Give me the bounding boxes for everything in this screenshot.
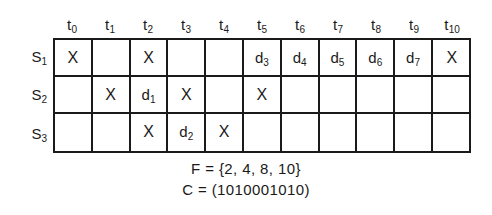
column-header-t10: t10: [433, 12, 471, 38]
column-header-t8: t8: [357, 12, 395, 38]
table-row: XXd3d4d5d6d7X: [55, 40, 469, 77]
subscript: 7: [414, 57, 420, 68]
column-header-t0: t0: [53, 12, 91, 38]
cell-S3-t1[interactable]: [93, 114, 131, 151]
cell-S3-t4[interactable]: X: [206, 114, 244, 151]
cell-S2-t1[interactable]: X: [93, 77, 131, 112]
subscript: 4: [301, 57, 307, 68]
cell-S3-t5[interactable]: [244, 114, 282, 151]
column-header-t5: t5: [243, 12, 281, 38]
cell-S1-t3[interactable]: [168, 40, 206, 75]
row-label-S1: S1: [14, 38, 53, 76]
cell-S3-t9[interactable]: [395, 114, 433, 151]
column-header-row: t0t1t2t3t4t5t6t7t8t9t10: [53, 12, 471, 38]
subscript: 7: [337, 24, 343, 35]
column-header-t1: t1: [91, 12, 129, 38]
reservation-table-figure: t0t1t2t3t4t5t6t7t8t9t10 S1S2S3 XXd3d4d5d…: [0, 0, 492, 215]
column-header-t6: t6: [281, 12, 319, 38]
cell-S1-t8[interactable]: d6: [357, 40, 395, 75]
subscript: 2: [41, 94, 47, 105]
subscript: 2: [147, 24, 153, 35]
subscript: 6: [299, 24, 305, 35]
cell-S1-t1[interactable]: [93, 40, 131, 75]
forbidden-latency-set: F = {2, 4, 8, 10}: [0, 158, 492, 179]
column-header-t7: t7: [319, 12, 357, 38]
cell-S2-t0[interactable]: [55, 77, 93, 112]
cell-S1-t10[interactable]: X: [433, 40, 471, 75]
cell-S1-t2[interactable]: X: [131, 40, 169, 75]
cell-S1-t7[interactable]: d5: [320, 40, 358, 75]
subscript: 2: [188, 131, 194, 142]
subscript: 0: [71, 24, 77, 35]
subscript: 5: [261, 24, 267, 35]
cell-S2-t3[interactable]: X: [168, 77, 206, 112]
subscript: 1: [41, 56, 47, 67]
subscript: 3: [263, 57, 269, 68]
row-label-S3: S3: [14, 115, 53, 153]
subscript: 5: [339, 57, 345, 68]
cell-S2-t6[interactable]: [282, 77, 320, 112]
row-label-column: S1S2S3: [14, 38, 53, 153]
subscript: 1: [109, 24, 115, 35]
cell-S1-t0[interactable]: X: [55, 40, 93, 75]
cell-S3-t7[interactable]: [320, 114, 358, 151]
subscript: 3: [185, 24, 191, 35]
subscript: 3: [41, 132, 47, 143]
subscript: 9: [413, 24, 419, 35]
cell-S1-t6[interactable]: d4: [282, 40, 320, 75]
cell-S3-t3[interactable]: d2: [168, 114, 206, 151]
cell-S2-t2[interactable]: d1: [131, 77, 169, 112]
subscript: 1: [150, 94, 156, 105]
subscript: 6: [377, 57, 383, 68]
cell-S2-t9[interactable]: [395, 77, 433, 112]
column-header-t4: t4: [205, 12, 243, 38]
cell-S3-t6[interactable]: [282, 114, 320, 151]
column-header-t2: t2: [129, 12, 167, 38]
table-row: Xd2X: [55, 114, 469, 151]
row-label-S2: S2: [14, 76, 53, 114]
cell-S3-t2[interactable]: X: [131, 114, 169, 151]
formula-block: F = {2, 4, 8, 10}C = (1010001010): [0, 158, 492, 200]
cell-S1-t4[interactable]: [206, 40, 244, 75]
cell-S3-t0[interactable]: [55, 114, 93, 151]
table-row: Xd1XX: [55, 77, 469, 114]
cell-S2-t8[interactable]: [357, 77, 395, 112]
collision-vector: C = (1010001010): [0, 179, 492, 200]
reservation-table-grid: XXd3d4d5d6d7XXd1XXXd2X: [53, 38, 471, 153]
cell-S1-t5[interactable]: d3: [244, 40, 282, 75]
cell-S2-t4[interactable]: [206, 77, 244, 112]
cell-S2-t7[interactable]: [320, 77, 358, 112]
cell-S1-t9[interactable]: d7: [395, 40, 433, 75]
cell-S3-t10[interactable]: [433, 114, 471, 151]
subscript: 4: [223, 24, 229, 35]
column-header-t3: t3: [167, 12, 205, 38]
subscript: 8: [375, 24, 381, 35]
column-header-t9: t9: [395, 12, 433, 38]
cell-S2-t10[interactable]: [433, 77, 471, 112]
cell-S3-t8[interactable]: [357, 114, 395, 151]
subscript: 10: [449, 24, 460, 35]
cell-S2-t5[interactable]: X: [244, 77, 282, 112]
